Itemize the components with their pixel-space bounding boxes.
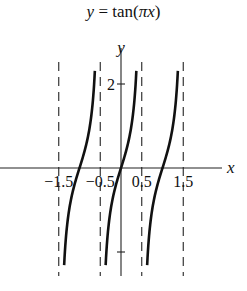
tick-labels: −1.5−0.50.51.52xy bbox=[44, 38, 235, 190]
x-tick-label: 0.5 bbox=[132, 173, 152, 190]
tan-plot: −1.5−0.50.51.52xy bbox=[0, 0, 247, 291]
x-tick-label: −0.5 bbox=[86, 173, 115, 190]
x-axis-label: x bbox=[226, 158, 235, 177]
y-axis-label: y bbox=[115, 38, 125, 57]
y-tick-label: 2 bbox=[107, 76, 115, 93]
x-tick-label: −1.5 bbox=[44, 173, 73, 190]
x-tick-label: 1.5 bbox=[173, 173, 193, 190]
